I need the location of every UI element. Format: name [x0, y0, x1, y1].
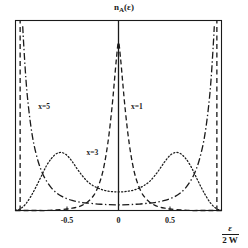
x-axis-label-denominator: 2 W — [215, 236, 245, 245]
curve-label-x5: x=5 — [38, 102, 50, 111]
curve-label-x3: x=3 — [87, 148, 99, 157]
xtick-label-pos-half: 0.5 — [154, 216, 186, 225]
xtick-label-zero: 0 — [103, 216, 135, 225]
xtick-label-neg-half: -0.5 — [51, 216, 83, 225]
x-axis-label: ε 2 W — [215, 224, 245, 245]
x-axis-label-numerator: ε — [215, 224, 245, 233]
figure-container: nA(ε) -0.5 0 0.5 x=5 x=3 x=1 ε 2 W — [0, 0, 248, 248]
plot-canvas — [0, 0, 248, 248]
curve-label-x1: x=1 — [131, 102, 143, 111]
